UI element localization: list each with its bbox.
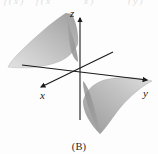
surface-plot-canvas: z x y (0, 0, 158, 154)
axis-line-y (22, 65, 147, 80)
figure-hyperbolic-paraboloid: f ( x ) f ( x x ) ( y ) (0, 0, 158, 154)
axis-label-z: z (69, 7, 75, 19)
surface-sheet-lower-right (83, 77, 152, 134)
axis-label-x: x (39, 89, 45, 101)
surface-sheet-upper-left (8, 13, 78, 68)
figure-caption: (B) (0, 141, 158, 152)
axis-label-y: y (142, 87, 148, 99)
